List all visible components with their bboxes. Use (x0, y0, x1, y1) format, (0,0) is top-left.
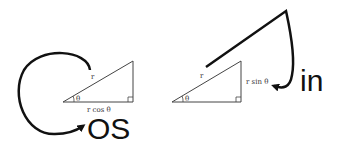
right-angle-marker (236, 97, 241, 102)
angle-label: θ (185, 95, 189, 103)
hypotenuse-label: r (200, 72, 204, 80)
curved-arrow-icon (19, 53, 90, 134)
angle-label: θ (76, 95, 80, 103)
cosine-triangle: r θ r cos θ (63, 61, 133, 114)
hook-arrow-icon (206, 11, 293, 87)
sin-suffix-text: in (300, 64, 323, 97)
trig-diagram-canvas: r θ r cos θ OS r θ r sin θ in (0, 0, 340, 147)
sine-triangle: r θ r sin θ (172, 61, 268, 103)
angle-arc (73, 96, 74, 102)
right-angle-marker (128, 97, 133, 102)
angle-arc (182, 96, 183, 102)
hypotenuse-label: r (91, 73, 95, 81)
cos-suffix-text: OS (87, 112, 130, 145)
triangle-outline (63, 61, 133, 102)
side-label: r sin θ (246, 78, 268, 86)
